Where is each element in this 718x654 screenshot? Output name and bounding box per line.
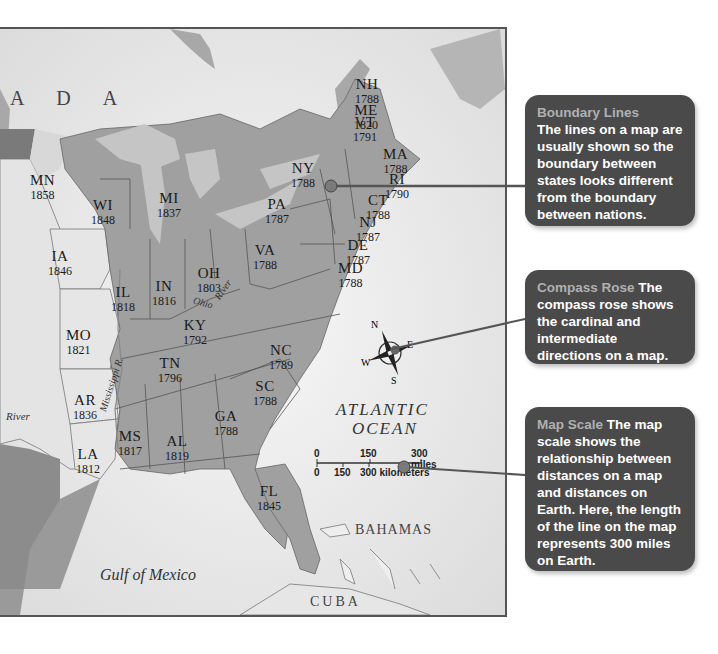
state-label-mi: MI1837 xyxy=(157,191,181,219)
state-label-tn: TN1796 xyxy=(158,356,182,384)
state-label-oh: OH1803 xyxy=(197,266,221,294)
compass-e: E xyxy=(407,339,413,350)
atlantic-ocean-label-line1: ATLANTIC xyxy=(336,400,429,420)
state-label-nh: NH1788 xyxy=(355,77,379,105)
callout-compass-rose: Compass Rose The compass rose shows the … xyxy=(525,270,695,364)
state-label-ky: KY1792 xyxy=(183,318,207,346)
state-label-pa: PA1787 xyxy=(265,197,289,225)
callout-title: Map Scale xyxy=(537,417,603,432)
scale-km-150: 150 xyxy=(334,467,351,478)
state-label-ms: MS1817 xyxy=(118,429,142,457)
scale-km-0: 0 xyxy=(314,467,320,478)
state-label-maine: ME1820 xyxy=(354,103,378,131)
scale-miles-150: 150 xyxy=(360,448,377,459)
compass-rose-icon xyxy=(365,325,415,381)
callout-body: The map scale shows the relationship bet… xyxy=(537,417,681,568)
state-label-in: IN1816 xyxy=(152,279,176,307)
compass-n: N xyxy=(371,319,378,330)
callout-title: Boundary Lines xyxy=(537,105,639,120)
callout-boundary-lines: Boundary Lines The lines on a map are us… xyxy=(525,95,695,226)
state-label-ga: GA1788 xyxy=(214,409,238,437)
scale-km-300: 300 kilometers xyxy=(360,467,430,478)
state-label-la: LA1812 xyxy=(76,447,100,475)
bahamas-label: BAHAMAS xyxy=(355,522,432,538)
callout-title: Compass Rose xyxy=(537,280,635,295)
state-label-ar: AR1836 xyxy=(73,393,97,421)
compass-rose: N S W E xyxy=(365,325,415,381)
historical-map: A D A BAHAMAS CUBA ATLANTIC OCEAN Gulf o… xyxy=(0,27,507,617)
cuba-label: CUBA xyxy=(310,594,361,610)
state-label-sc: SC1788 xyxy=(253,379,277,407)
callout-map-scale: Map Scale The map scale shows the relati… xyxy=(525,407,695,571)
state-label-fl: FL1845 xyxy=(257,484,281,512)
state-label-ny: NY1788 xyxy=(291,161,315,189)
state-label-mn: MN1858 xyxy=(30,173,55,201)
western-river-label: River xyxy=(6,410,30,422)
compass-s: S xyxy=(391,375,397,386)
state-label-mo: MO1821 xyxy=(66,328,91,356)
gulf-of-mexico-label: Gulf of Mexico xyxy=(100,566,196,584)
state-label-wi: WI1848 xyxy=(91,198,115,226)
map-scale: 0 150 300 miles 0 150 300 kilometers xyxy=(316,451,446,481)
state-label-va: VA1788 xyxy=(253,243,277,271)
compass-w: W xyxy=(361,357,370,368)
callout-body: The lines on a map are usually shown so … xyxy=(537,122,683,222)
state-label-il: IL1818 xyxy=(111,285,135,313)
state-label-al: AL1819 xyxy=(165,434,189,462)
scale-miles-0: 0 xyxy=(314,448,320,459)
atlantic-ocean-label-line2: OCEAN xyxy=(352,419,418,439)
canada-label: A D A xyxy=(10,87,131,110)
state-label-md: MD1788 xyxy=(338,261,363,289)
state-label-ia: IA1846 xyxy=(48,249,72,277)
state-label-nc: NC1789 xyxy=(269,343,293,371)
